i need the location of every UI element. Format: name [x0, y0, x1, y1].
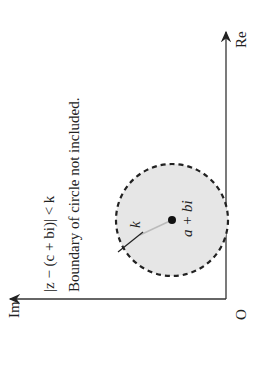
radius-label: k [127, 221, 143, 228]
center-point [168, 216, 176, 224]
argand-diagram: Re Im O a + bi k |z − (c + bi)| < k Boun… [0, 0, 254, 382]
boundary-note: Boundary of circle not included. [66, 97, 82, 292]
real-axis-label: Re [233, 31, 249, 48]
origin-label: O [233, 309, 249, 320]
inequality-label: |z − (c + bi)| < k [41, 195, 58, 292]
center-label: a + bi [179, 200, 195, 237]
imaginary-axis-label: Im [6, 301, 22, 318]
